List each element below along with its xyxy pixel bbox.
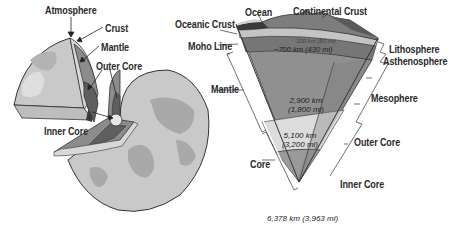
label-asthenosphere: Asthenosphere: [383, 56, 447, 67]
label-inner-core: Inner Core: [44, 126, 88, 137]
label-core-section: Core: [250, 159, 270, 170]
label-lithosphere: Lithosphere: [389, 44, 440, 55]
measure-mantle-depth-km: 2,900 km: [286, 96, 326, 105]
label-mesosphere: Mesophere: [371, 93, 418, 104]
label-inner-core-section: Inner Core: [340, 179, 384, 190]
label-oceanic-crust: Oceanic Crust: [175, 19, 235, 30]
label-atmosphere: Atmosphere: [45, 5, 97, 16]
label-moho-line: Moho Line: [188, 41, 232, 52]
measure-outer-core-depth-mi: (3,200 mi): [280, 140, 320, 149]
label-mantle-section: Mantle: [211, 84, 239, 95]
label-ocean: Ocean: [245, 7, 272, 18]
measure-mantle-depth-mi: (1,800 mi): [286, 105, 326, 114]
measure-asthenosphere-depth: ~700 km (430 mi): [274, 45, 333, 54]
label-continental-crust: Continental Crust: [293, 6, 367, 17]
earth-layers-diagram: Atmosphere Crust Mantle Outer Core Inner…: [0, 0, 450, 228]
globe-illustration: [0, 0, 450, 228]
measure-outer-core-depth-km: 5,100 km: [280, 131, 320, 140]
label-outer-core-section: Outer Core: [354, 137, 400, 148]
label-mantle: Mantle: [101, 42, 129, 53]
label-crust: Crust: [105, 23, 128, 34]
label-outer-core: Outer Core: [96, 61, 142, 72]
globe-cap-piece: [14, 38, 98, 122]
measure-center-depth: 6,378 km (3,963 mi): [267, 214, 338, 223]
